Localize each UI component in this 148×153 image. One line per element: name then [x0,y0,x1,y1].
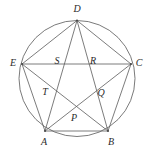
vertex-dot-d [76,19,78,21]
chord-b-e [22,64,108,131]
intersection-label-p: P [70,112,77,123]
vertex-dot-a [44,130,46,132]
chord-b-d [77,21,108,132]
vertex-dot-e [21,63,23,65]
geometry-canvas: DCBAESRTQP [0,0,148,153]
vertex-dot-b [107,130,109,132]
vertex-label-e: E [9,57,16,68]
vertex-label-a: A [40,136,48,147]
vertex-dot-c [130,63,132,65]
chord-a-c [45,64,131,131]
intersection-label-r: R [89,55,96,66]
intersection-label-q: Q [97,87,105,98]
vertex-label-c: C [136,57,143,68]
chord-b-c [108,64,131,131]
geometry-figure: DCBAESRTQP [0,0,148,153]
chord-e-a [22,64,45,131]
intersection-label-t: T [42,86,49,97]
vertex-label-b: B [108,136,114,147]
vertex-label-d: D [72,3,81,14]
intersection-label-s: S [55,55,60,66]
